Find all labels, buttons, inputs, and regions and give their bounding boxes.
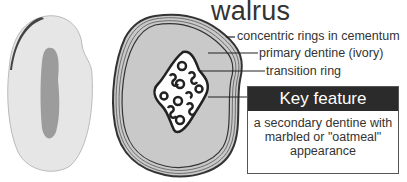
- key-feature-heading: Key feature: [248, 87, 398, 111]
- tusk-cross-section: [113, 15, 242, 177]
- label-cementum: concentric rings in cementum: [237, 29, 400, 43]
- label-primary-dentine: primary dentine (ivory): [259, 46, 383, 60]
- label-transition-ring: transition ring: [266, 64, 341, 78]
- key-line-2: marbled or "oatmeal": [248, 130, 398, 144]
- diagram-title: walrus: [211, 0, 290, 27]
- key-line-3: appearance: [248, 144, 398, 158]
- key-feature-box: Key feature a secondary dentine with mar…: [247, 86, 399, 174]
- tusk-photo: [8, 16, 93, 172]
- key-line-1: a secondary dentine with: [248, 116, 398, 130]
- key-feature-text: a secondary dentine with marbled or "oat…: [248, 111, 398, 158]
